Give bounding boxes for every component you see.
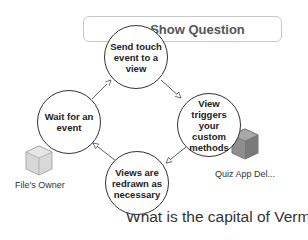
node-views-redrawn-label: Views are redrawn as necessary (111, 167, 163, 200)
node-wait-for-event: Wait for an event (37, 90, 101, 154)
node-views-redrawn: Views are redrawn as necessary (105, 151, 169, 215)
node-wait-for-event-label: Wait for an event (43, 111, 95, 133)
node-view-triggers-methods-label: View triggers your custom methods (183, 98, 235, 153)
node-send-touch-event: Send touch event to a view (104, 25, 168, 89)
node-view-triggers-methods: View triggers your custom methods (177, 93, 241, 157)
node-send-touch-event-label: Send touch event to a view (110, 41, 162, 74)
